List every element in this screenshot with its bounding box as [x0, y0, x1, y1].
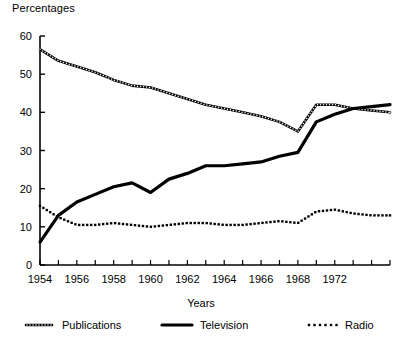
legend-item-radio: Radio: [305, 319, 374, 331]
svg-text:1962: 1962: [175, 273, 199, 285]
svg-text:60: 60: [20, 30, 32, 42]
svg-text:1958: 1958: [101, 273, 125, 285]
radio-line-icon: [305, 320, 339, 330]
chart-plot-area: 0102030405060 19541956195819601962196419…: [0, 0, 402, 300]
x-axis-tick-labels: 195419561958196019621964196619681972: [28, 273, 347, 285]
legend-label-radio: Radio: [345, 319, 374, 331]
chart-container: Percentages 0102030405060 19541956195819…: [0, 0, 402, 346]
svg-text:1972: 1972: [322, 273, 346, 285]
chart-legend: Publications Television Radio: [0, 316, 402, 342]
svg-text:10: 10: [20, 221, 32, 233]
svg-text:1960: 1960: [138, 273, 162, 285]
legend-label-television: Television: [200, 319, 248, 331]
series-radio: [39, 205, 391, 228]
series-television: [40, 105, 390, 242]
chart-series-layer: [39, 49, 391, 242]
svg-text:1954: 1954: [28, 273, 52, 285]
series-publications: [39, 49, 391, 132]
svg-text:1966: 1966: [249, 273, 273, 285]
svg-text:0: 0: [26, 259, 32, 271]
svg-text:1968: 1968: [286, 273, 310, 285]
x-axis-title: Years: [0, 297, 402, 309]
svg-text:1964: 1964: [212, 273, 236, 285]
svg-text:30: 30: [20, 145, 32, 157]
television-line-icon: [160, 320, 194, 330]
y-axis-tick-labels: 0102030405060: [20, 30, 32, 271]
legend-item-publications: Publications: [22, 319, 121, 331]
svg-text:1956: 1956: [65, 273, 89, 285]
legend-label-publications: Publications: [62, 319, 121, 331]
svg-text:40: 40: [20, 106, 32, 118]
svg-text:50: 50: [20, 68, 32, 80]
svg-text:20: 20: [20, 183, 32, 195]
legend-item-television: Television: [160, 319, 248, 331]
publications-line-icon: [22, 320, 56, 330]
